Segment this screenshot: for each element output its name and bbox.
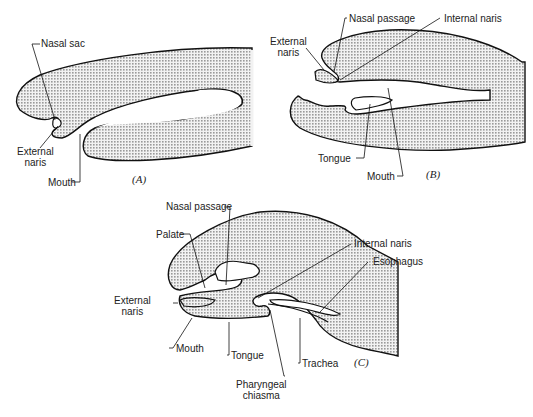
label-b-external-naris: External naris <box>270 36 307 58</box>
label-c-pharyngeal-chiasma: Pharyngeal chiasma <box>236 379 287 401</box>
panel-label-b: (B) <box>426 168 440 180</box>
label-c-mouth: Mouth <box>176 343 204 354</box>
panel-b-drawing <box>290 30 525 151</box>
label-b-internal-naris: Internal naris <box>444 13 502 24</box>
label-a-external-naris: External naris <box>17 146 54 168</box>
label-b-tongue: Tongue <box>318 153 351 164</box>
label-a-mouth: Mouth <box>48 177 76 188</box>
panel-a-drawing <box>17 48 252 161</box>
label-c-external-naris: External naris <box>114 295 151 317</box>
label-c-nasal-passage: Nasal passage <box>166 201 232 212</box>
panel-label-a: (A) <box>132 173 146 185</box>
label-c-tongue: Tongue <box>231 350 264 361</box>
label-b-nasal-passage: Nasal passage <box>349 13 415 24</box>
label-b-mouth: Mouth <box>367 171 395 182</box>
label-c-palate: Palate <box>156 229 184 240</box>
label-c-trachea: Trachea <box>302 358 338 369</box>
label-a-nasal-sac: Nasal sac <box>41 38 85 49</box>
label-c-internal-naris: Internal naris <box>354 238 412 249</box>
panel-label-c: (C) <box>354 356 369 368</box>
diagram-canvas <box>0 0 533 417</box>
label-c-esophagus: Esophagus <box>373 256 423 267</box>
